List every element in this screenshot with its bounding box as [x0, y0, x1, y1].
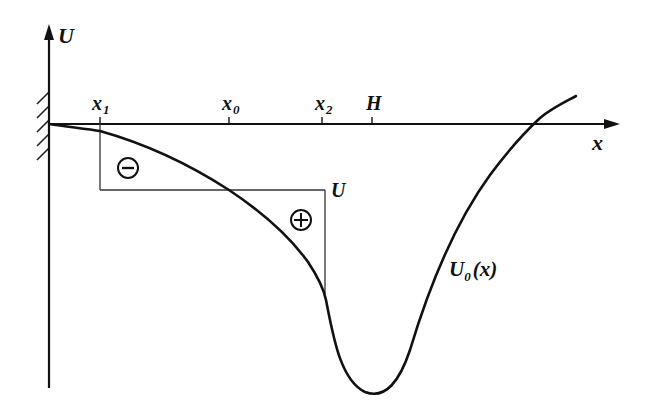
minus-region-marker: [118, 158, 138, 178]
curve-label: U0(x): [449, 257, 497, 284]
plus-region-marker: [291, 210, 311, 230]
potential-curve: [49, 96, 576, 394]
tick-marks: [100, 117, 372, 124]
x-axis-arrow-icon: [604, 119, 620, 129]
tick-label-H: H: [365, 92, 383, 114]
tick-label-x0: x0: [221, 92, 240, 117]
wall-hatching: [37, 92, 49, 160]
y-axis-arrow-icon: [44, 24, 54, 40]
energy-level-label: U: [331, 179, 347, 201]
potential-energy-diagram: U x x1 x0 x2 H U U0(x): [0, 0, 649, 409]
tick-label-x2: x2: [314, 92, 333, 117]
tick-label-x1: x1: [91, 92, 110, 117]
y-axis-label: U: [58, 23, 75, 48]
energy-level-guides: [100, 124, 325, 294]
y-axis: [44, 24, 54, 388]
x-axis-label: x: [591, 130, 603, 155]
